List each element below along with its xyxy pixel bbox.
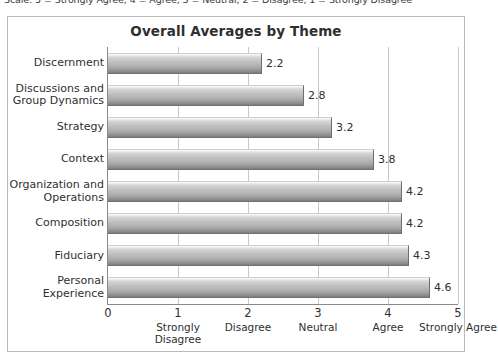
bar-row: 4.2 <box>108 176 458 208</box>
category-label: Personal Experience <box>8 272 104 304</box>
x-tick: 1Strongly Disagree <box>138 306 218 345</box>
x-tick-description: Strongly Disagree <box>138 321 218 345</box>
bar-value-label: 4.2 <box>406 185 424 198</box>
x-tick-description: Strongly Agree <box>418 321 498 333</box>
category-label: Organization and Operations <box>8 176 104 208</box>
bar <box>108 245 409 266</box>
x-axis-tick-labels: 01Strongly Disagree2Disagree3Neutral4Agr… <box>108 306 458 352</box>
x-tick: 5Strongly Agree <box>418 306 498 333</box>
x-tick-description: Disagree <box>208 321 288 333</box>
category-label: Discussions and Group Dynamics <box>8 79 104 111</box>
bar-row: 2.2 <box>108 47 458 79</box>
gridline <box>458 47 459 304</box>
x-tick: 0 <box>68 306 148 320</box>
x-tick-number: 1 <box>138 306 218 320</box>
bar <box>108 181 402 202</box>
bar-row: 3.2 <box>108 111 458 143</box>
plot-area: 2.22.83.23.84.24.24.34.6 <box>108 47 458 304</box>
bar <box>108 53 262 74</box>
bar-row: 2.8 <box>108 79 458 111</box>
category-label: Context <box>8 143 104 175</box>
bar-value-label: 4.6 <box>434 281 452 294</box>
x-tick-description: Neutral <box>278 321 358 333</box>
x-tick-number: 3 <box>278 306 358 320</box>
category-label: Strategy <box>8 111 104 143</box>
bar-value-label: 3.2 <box>336 121 354 134</box>
bar-value-label: 4.3 <box>413 249 431 262</box>
bar <box>108 85 304 106</box>
x-tick: 4Agree <box>348 306 428 333</box>
bar-series: 2.22.83.23.84.24.24.34.6 <box>108 47 458 304</box>
bar-value-label: 3.8 <box>378 153 396 166</box>
x-axis-line <box>107 304 458 305</box>
x-tick-number: 5 <box>418 306 498 320</box>
bar-row: 4.2 <box>108 208 458 240</box>
bar-row: 3.8 <box>108 143 458 175</box>
bar <box>108 117 332 138</box>
bar <box>108 277 430 298</box>
chart-container: Overall Averages by Theme DiscernmentDis… <box>7 16 465 352</box>
x-tick-number: 4 <box>348 306 428 320</box>
x-tick: 3Neutral <box>278 306 358 333</box>
x-tick: 2Disagree <box>208 306 288 333</box>
category-label: Composition <box>8 208 104 240</box>
category-label: Discernment <box>8 47 104 79</box>
bar-value-label: 2.8 <box>308 89 326 102</box>
x-tick-number: 2 <box>208 306 288 320</box>
bar-row: 4.6 <box>108 272 458 304</box>
bar-value-label: 2.2 <box>266 57 284 70</box>
bar <box>108 149 374 170</box>
x-tick-description: Agree <box>348 321 428 333</box>
category-axis-labels: DiscernmentDiscussions and Group Dynamic… <box>8 47 104 304</box>
x-tick-number: 0 <box>68 306 148 320</box>
bar-row: 4.3 <box>108 240 458 272</box>
category-label: Fiduciary <box>8 240 104 272</box>
bar <box>108 213 402 234</box>
scale-caption: Scale: 5 = Strongly Agree, 4 = Agree, 3 … <box>4 0 474 6</box>
chart-title: Overall Averages by Theme <box>8 23 464 39</box>
bar-value-label: 4.2 <box>406 217 424 230</box>
